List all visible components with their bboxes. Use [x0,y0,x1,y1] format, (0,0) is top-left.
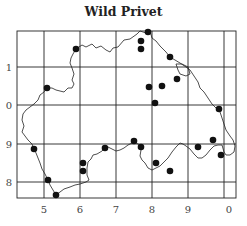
record-dot [73,46,80,53]
y-axis-label: 9 [6,139,12,150]
record-dot [153,160,160,167]
grid-lines [17,31,236,198]
x-axis-label: 7 [113,204,119,215]
x-axis-label: 8 [149,204,155,215]
record-dot [195,144,202,151]
record-dot [131,138,138,145]
record-dot [216,106,223,113]
record-dot [138,144,145,151]
record-dot [53,192,60,199]
record-dot [218,152,225,159]
y-axis-label: 0 [6,100,12,111]
record-dot [31,146,38,153]
record-dot [167,168,174,175]
record-dot [44,85,51,92]
map-frame [17,31,236,198]
x-axis-label: 0 [226,204,232,215]
record-dot [138,46,145,53]
record-dot [146,84,153,91]
record-dot [159,83,166,90]
distribution-map: 567890 1098 [0,0,247,226]
x-axis-label: 6 [77,204,83,215]
record-dot [174,76,181,83]
record-dot [167,54,174,61]
record-dot [152,100,159,107]
record-dot [80,168,87,175]
record-dots [31,29,225,199]
record-dot [145,29,152,36]
record-dot [138,38,145,45]
y-axis-label: 8 [6,177,12,188]
y-axis-label: 1 [6,62,12,73]
record-dot [80,160,87,167]
record-dot [102,145,109,152]
x-axis-label: 9 [185,204,191,215]
x-axis-label: 5 [41,204,47,215]
record-dot [210,137,217,144]
x-axis-labels: 567890 [41,204,232,215]
coastline-outline [22,31,235,195]
record-dot [45,177,52,184]
y-axis-labels: 1098 [6,62,12,188]
